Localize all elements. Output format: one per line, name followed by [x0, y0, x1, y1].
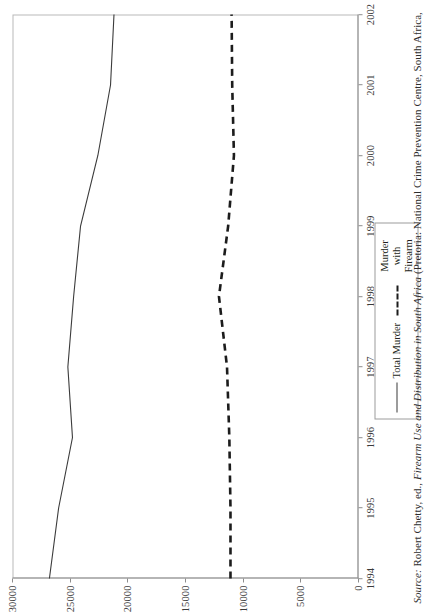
tick-mark	[12, 578, 13, 582]
x-tick-2001: 2001	[358, 74, 375, 95]
tick-mark	[358, 84, 362, 85]
solid-line-icon	[391, 382, 401, 412]
x-tick-label: 2000	[364, 144, 375, 165]
tick-mark	[300, 578, 301, 582]
y-tick-25000: 25000	[64, 578, 75, 612]
figure-canvas: 199419951996199719981999200020012002 050…	[0, 0, 437, 615]
x-tick-label: 1997	[364, 356, 375, 377]
source-caption: Source: Robert Chetty, ed., Firearm Use …	[410, 9, 424, 603]
tick-mark	[127, 578, 128, 582]
x-tick-1998: 1998	[358, 285, 375, 306]
x-tick-2002: 2002	[358, 3, 375, 24]
x-tick-label: 1996	[364, 426, 375, 447]
legend-entry-murder-with-firearm: Murder with Firearm	[378, 229, 413, 315]
y-tick-label: 25000	[64, 582, 75, 612]
x-tick-label: 1995	[364, 497, 375, 518]
tick-mark	[69, 578, 70, 582]
series-line-murder-with-firearm	[218, 14, 233, 578]
chart-plot-area: 199419951996199719981999200020012002 050…	[12, 14, 358, 578]
y-tick-5000: 5000	[295, 578, 306, 606]
y-tick-label: 10000	[237, 582, 248, 612]
y-tick-20000: 20000	[122, 578, 133, 612]
legend-label-total-murder: Total Murder	[390, 322, 402, 378]
x-tick-1999: 1999	[358, 215, 375, 236]
y-tick-label: 15000	[180, 582, 191, 612]
x-tick-1997: 1997	[358, 356, 375, 377]
tick-mark	[358, 437, 362, 438]
tick-mark	[358, 507, 362, 508]
source-title: Firearm Use and Distribution in South Af…	[410, 276, 422, 479]
y-tick-label: 20000	[122, 582, 133, 612]
source-prefix: Source:	[410, 569, 422, 603]
tick-mark	[358, 14, 362, 15]
y-tick-label: 30000	[7, 582, 18, 612]
source-publication: (Pretoria: National Crime Prevention Cen…	[410, 12, 422, 277]
legend-entry-total-murder: Total Murder	[390, 322, 402, 412]
x-tick-1995: 1995	[358, 497, 375, 518]
y-tick-10000: 10000	[237, 578, 248, 612]
tick-mark	[358, 578, 359, 582]
y-axis-ticks: 050001000015000200002500030000	[12, 578, 358, 615]
x-tick-label: 1998	[364, 285, 375, 306]
x-tick-1996: 1996	[358, 426, 375, 447]
y-tick-15000: 15000	[180, 578, 191, 612]
y-tick-label: 0	[353, 582, 364, 590]
y-tick-0: 0	[353, 578, 364, 590]
series-plot	[12, 14, 358, 578]
dashed-line-icon	[391, 285, 401, 315]
x-tick-2000: 2000	[358, 144, 375, 165]
legend-label-murder-with-firearm: Murder with Firearm	[378, 229, 413, 281]
series-line-total-murder	[49, 14, 114, 578]
x-tick-label: 1999	[364, 215, 375, 236]
x-tick-label: 2001	[364, 74, 375, 95]
tick-mark	[358, 155, 362, 156]
tick-mark	[358, 366, 362, 367]
tick-mark	[358, 296, 362, 297]
x-tick-label: 1994	[364, 567, 375, 588]
tick-mark	[185, 578, 186, 582]
tick-mark	[242, 578, 243, 582]
x-tick-label: 2002	[364, 3, 375, 24]
tick-mark	[358, 225, 362, 226]
source-author: Robert Chetty, ed.,	[410, 480, 422, 569]
y-tick-30000: 30000	[7, 578, 18, 612]
y-tick-label: 5000	[295, 582, 306, 606]
